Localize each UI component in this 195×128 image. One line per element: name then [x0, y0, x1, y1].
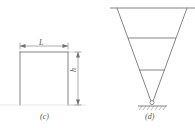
- cross-members: [128, 38, 176, 70]
- figure-container: L h (c) (d): [0, 0, 195, 128]
- ground-hatching-icon: [139, 106, 166, 110]
- dim-L-arrow-right: [63, 44, 69, 48]
- pin-joint-icon: [150, 101, 154, 105]
- right-inclined-member: [152, 8, 187, 104]
- width-dimension-line-L: [20, 43, 68, 50]
- height-dimension-line-h: [68, 52, 82, 105]
- panel-caption-d: (d): [145, 113, 154, 121]
- technical-diagram-svg: [0, 0, 195, 128]
- panel-c-group: [0, 43, 86, 106]
- dim-L-arrow-left: [20, 44, 26, 48]
- panel-d-group: [110, 8, 195, 110]
- height-dimension-label: h: [70, 68, 78, 72]
- dim-h-arrow-top: [76, 52, 80, 58]
- portal-frame-outline: [20, 52, 68, 105]
- width-dimension-label: L: [39, 39, 43, 47]
- left-inclined-member: [117, 8, 152, 104]
- panel-caption-c: (c): [40, 113, 49, 121]
- inclined-members: [117, 8, 187, 104]
- dim-h-arrow-bottom: [76, 100, 80, 106]
